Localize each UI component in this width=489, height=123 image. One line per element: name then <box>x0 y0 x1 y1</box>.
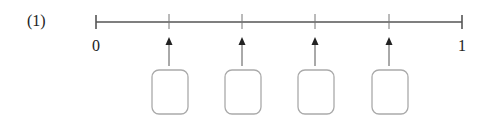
answer-box-1[interactable] <box>152 70 188 114</box>
answer-box-3[interactable] <box>298 70 334 114</box>
arrow-up-icon <box>312 37 319 66</box>
arrow-up-icon <box>386 37 393 66</box>
arrow-up-icon <box>166 37 173 66</box>
answer-box-2[interactable] <box>225 70 261 114</box>
answer-box-4[interactable] <box>372 70 408 114</box>
arrow-up-icon <box>239 37 246 66</box>
number-line-diagram <box>0 0 489 123</box>
